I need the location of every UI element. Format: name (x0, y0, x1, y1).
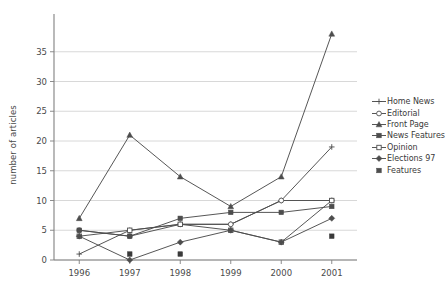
legend-marker-icon (372, 96, 387, 107)
x-tick-label: 2000 (270, 268, 292, 278)
legend-marker-icon (372, 119, 387, 130)
marker-open-square (330, 198, 334, 202)
y-tick-label: 30 (36, 77, 47, 87)
legend-marker-icon (372, 130, 387, 141)
marker-square (377, 168, 382, 173)
marker-open-square (128, 228, 132, 232)
x-tick-label: 1998 (169, 268, 191, 278)
series-line (79, 201, 332, 237)
legend-item-elections-97[interactable]: Elections 97 (372, 153, 442, 164)
y-tick-label: 10 (36, 196, 47, 206)
legend-item-opinion[interactable]: Opinion (372, 142, 442, 153)
legend-item-front-page[interactable]: Front Page (372, 119, 442, 130)
marker-triangle (127, 132, 133, 137)
x-tick-label: 1997 (119, 268, 141, 278)
marker-triangle (278, 174, 284, 179)
series-front-page (76, 31, 334, 221)
marker-triangle (76, 215, 82, 220)
marker-square (329, 234, 334, 239)
y-tick-label: 35 (36, 47, 47, 57)
legend-label: Front Page (387, 119, 429, 130)
marker-triangle (329, 31, 335, 36)
series-elections-97 (76, 215, 335, 263)
marker-diamond (376, 156, 382, 162)
marker-open-square (178, 222, 182, 226)
legend-label: Elections 97 (387, 153, 435, 164)
legend-marker-icon (372, 142, 387, 153)
series-features (127, 234, 334, 256)
marker-square (178, 252, 183, 257)
x-tick-label: 2001 (321, 268, 343, 278)
y-tick-label: 0 (42, 255, 47, 265)
legend-label: Editorial (387, 108, 420, 119)
marker-diamond (177, 239, 183, 245)
marker-square (178, 216, 183, 221)
legend-marker-icon (372, 108, 387, 119)
marker-open-circle (377, 111, 382, 116)
y-tick-label: 20 (36, 136, 47, 146)
legend-label: Home News (387, 96, 434, 107)
y-tick-label: 25 (36, 106, 47, 116)
y-tick-label: 5 (42, 225, 47, 235)
legend-item-home-news[interactable]: Home News (372, 96, 442, 107)
marker-triangle (228, 203, 234, 208)
legend-item-editorial[interactable]: Editorial (372, 107, 442, 118)
chart-legend: Home NewsEditorialFront PageNews Feature… (372, 96, 442, 176)
marker-square (77, 228, 82, 233)
marker-square (228, 210, 233, 215)
marker-square (127, 252, 132, 257)
marker-square (127, 234, 132, 239)
marker-open-circle (279, 198, 284, 203)
series-news-features (77, 204, 334, 238)
legend-item-news-features[interactable]: News Features (372, 130, 442, 141)
legend-item-features[interactable]: Features (372, 164, 442, 175)
series-editorial (77, 198, 334, 239)
series-line (79, 34, 332, 218)
marker-square (279, 210, 284, 215)
legend-label: News Features (387, 130, 445, 141)
legend-label: Opinion (387, 142, 418, 153)
marker-open-circle (228, 222, 233, 227)
marker-square (377, 134, 382, 139)
legend-marker-icon (372, 153, 387, 164)
x-tick-label: 1996 (68, 268, 90, 278)
marker-diamond (127, 257, 133, 263)
x-tick-label: 1999 (220, 268, 242, 278)
legend-marker-icon (372, 165, 387, 176)
y-tick-label: 15 (36, 166, 47, 176)
legend-label: Features (387, 165, 421, 176)
marker-square (329, 204, 334, 209)
marker-diamond (329, 215, 335, 221)
marker-open-square (377, 145, 381, 149)
